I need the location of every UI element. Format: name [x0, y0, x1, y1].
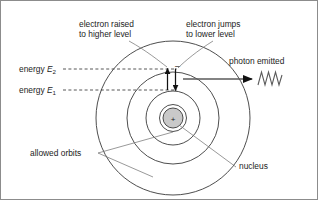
- nucleus-charge-symbol: +: [171, 115, 176, 124]
- label-energy-1-subscript: 1: [53, 89, 56, 96]
- leader-allowed-orbits-b: [98, 153, 153, 177]
- label-energy-2-symbol: E: [47, 64, 53, 74]
- label-nucleus-text: nucleus: [239, 161, 268, 171]
- label-electron-raised: electron raisedto higher level: [79, 19, 134, 39]
- label-electron-jumps-line2: to lower level: [186, 29, 235, 39]
- leader-electron-jumps: [178, 41, 213, 68]
- label-electron-jumps: electron jumpsto lower level: [186, 19, 240, 39]
- label-energy-1-symbol: E: [47, 85, 53, 95]
- label-energy-level-2: energy E2: [19, 64, 56, 75]
- label-energy-2-subscript: 2: [53, 68, 56, 75]
- label-photon-emitted-text: photon emitted: [229, 56, 284, 66]
- label-electron-jumps-line1: electron jumps: [186, 19, 240, 29]
- label-allowed-orbits: allowed orbits: [30, 148, 81, 158]
- label-electron-raised-line1: electron raised: [79, 19, 134, 29]
- leader-nucleus: [179, 125, 236, 167]
- label-electron-raised-line2: to higher level: [79, 29, 131, 39]
- label-energy-1-prefix: energy: [19, 85, 47, 95]
- label-allowed-orbits-text: allowed orbits: [30, 148, 81, 158]
- diagram-canvas: + – electron raisedto higher level elect…: [0, 0, 318, 200]
- photon-wave: [258, 72, 282, 85]
- label-energy-2-prefix: energy: [19, 64, 47, 74]
- label-photon-emitted: photon emitted: [229, 56, 284, 66]
- label-energy-level-1: energy E1: [19, 85, 56, 96]
- atom-diagram-svg: + –: [1, 1, 318, 200]
- label-nucleus: nucleus: [239, 161, 268, 171]
